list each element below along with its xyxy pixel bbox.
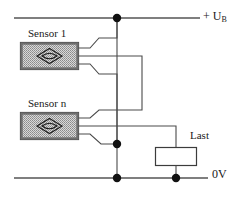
- wire-sensor1-ground: [79, 64, 118, 144]
- supply-rail-label-text: + U: [203, 9, 221, 23]
- supply-rail-label: + UB: [203, 10, 227, 22]
- sensor-1-body: [21, 43, 79, 70]
- wire-sensorn-ground: [79, 134, 118, 144]
- junction-signal: [113, 140, 121, 148]
- junction-ground-signal: [113, 174, 121, 182]
- sensor-n-wiring: [79, 110, 177, 147]
- sensor-1-wiring: [79, 18, 143, 144]
- load-label: Last: [190, 130, 209, 141]
- junction-ground-load: [172, 174, 180, 182]
- wire-sensor1-supply: [79, 18, 118, 48]
- load-component: [156, 148, 197, 179]
- sensor-n-body: [21, 113, 79, 140]
- supply-rail-label-subscript: B: [221, 15, 226, 24]
- sensor-1-label: Sensor 1: [28, 28, 66, 39]
- circuit-diagram: + UB 0V Sensor 1 Sensor n Last: [0, 0, 241, 198]
- ground-rail-label: 0V: [212, 168, 227, 180]
- wire-sensorn-supply: [79, 110, 105, 118]
- sensor-n-label: Sensor n: [28, 98, 66, 109]
- junction-supply: [113, 14, 121, 22]
